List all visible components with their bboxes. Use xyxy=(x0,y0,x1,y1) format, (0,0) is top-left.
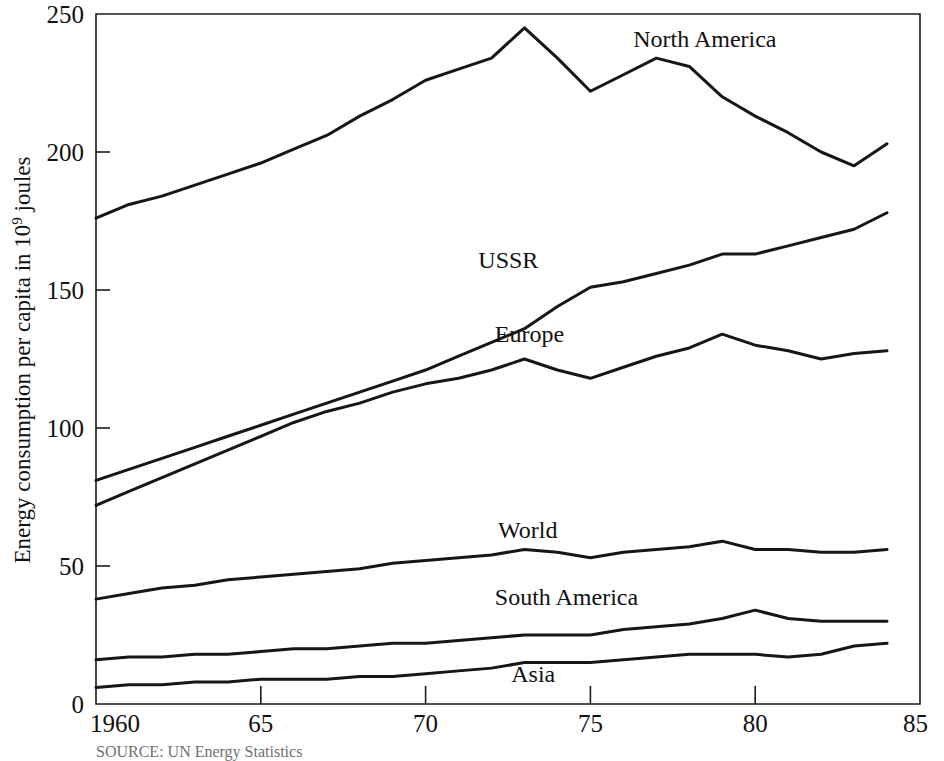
y-axis-title-text: Energy consumption per capita in 109 jou… xyxy=(9,156,35,563)
series-line-north-america xyxy=(96,28,887,218)
series-line-south-america xyxy=(96,610,887,660)
x-axis-tick-labels: 19606570758085 xyxy=(90,710,928,737)
y-tick-label-200: 200 xyxy=(47,139,85,166)
x-tick-label-1960: 1960 xyxy=(90,710,140,737)
series-label-europe: Europe xyxy=(495,321,564,347)
x-axis-ticks xyxy=(261,686,755,704)
series-line-world xyxy=(96,541,887,599)
x-tick-label-1980: 80 xyxy=(743,710,768,737)
series-line-asia xyxy=(96,643,887,687)
y-tick-label-250: 250 xyxy=(47,1,85,28)
source-note: SOURCE: UN Energy Statistics xyxy=(96,743,302,761)
chart-figure: 050100150200250 19606570758085 Energy co… xyxy=(0,0,944,761)
y-tick-label-0: 0 xyxy=(72,691,85,718)
x-tick-label-1965: 65 xyxy=(248,710,273,737)
y-tick-label-100: 100 xyxy=(47,415,85,442)
y-tick-label-50: 50 xyxy=(59,553,84,580)
y-tick-label-150: 150 xyxy=(47,277,85,304)
line-chart-svg: 050100150200250 19606570758085 Energy co… xyxy=(0,0,944,761)
series-line-europe xyxy=(96,334,887,505)
x-tick-label-1970: 70 xyxy=(413,710,438,737)
series-inline-labels: North AmericaUSSREuropeWorldSouth Americ… xyxy=(478,26,777,687)
series-label-ussr: USSR xyxy=(478,247,538,273)
series-label-world: World xyxy=(498,517,557,543)
y-axis-tick-labels: 050100150200250 xyxy=(47,1,85,718)
series-lines xyxy=(96,28,887,688)
y-axis-title: Energy consumption per capita in 109 jou… xyxy=(9,156,35,563)
x-tick-label-1975: 75 xyxy=(578,710,603,737)
series-label-north-america: North America xyxy=(633,26,777,52)
series-label-south-america: South America xyxy=(495,584,639,610)
series-label-asia: Asia xyxy=(511,661,555,687)
x-tick-label-1985: 85 xyxy=(903,710,928,737)
